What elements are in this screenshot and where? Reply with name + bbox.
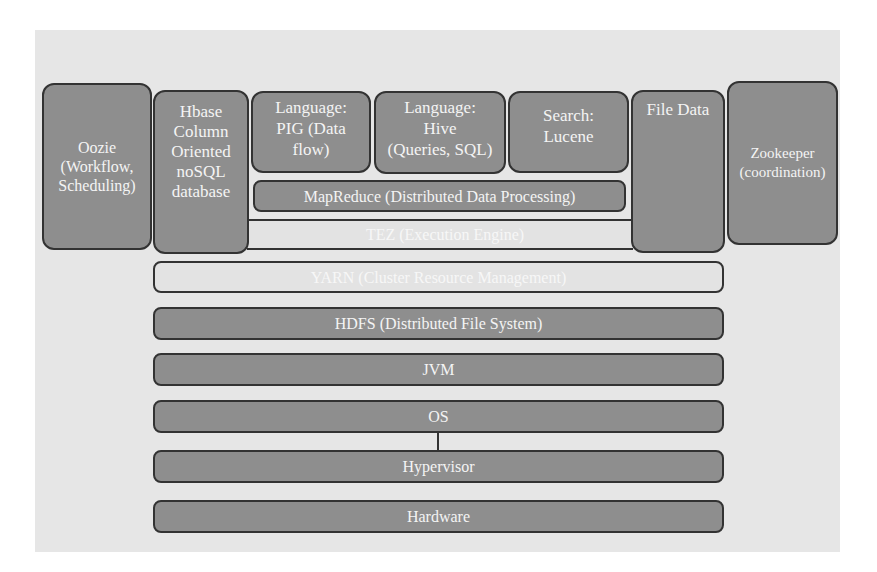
tez-layer: TEZ (Execution Engine) — [247, 219, 633, 250]
oozie-label: Oozie (Workflow, Scheduling) — [58, 138, 135, 195]
file-data-box: File Data — [631, 90, 725, 253]
hive-box: Language: Hive (Queries, SQL) — [374, 91, 506, 174]
tez-label: TEZ (Execution Engine) — [366, 226, 524, 244]
file-data-label: File Data — [647, 100, 710, 119]
pig-box: Language: PIG (Data flow) — [251, 91, 371, 173]
hbase-label: Hbase Column Oriented noSQL database — [171, 102, 230, 202]
hardware-layer: Hardware — [153, 500, 724, 533]
hdfs-layer: HDFS (Distributed File System) — [153, 307, 724, 340]
pig-label: Language: PIG (Data flow) — [275, 97, 347, 160]
hypervisor-layer: Hypervisor — [153, 450, 724, 483]
oozie-box: Oozie (Workflow, Scheduling) — [42, 83, 152, 250]
lucene-box: Search: Lucene — [508, 91, 629, 173]
jvm-layer: JVM — [153, 353, 724, 386]
yarn-label: YARN (Cluster Resource Management) — [311, 268, 567, 287]
os-layer: OS — [153, 400, 724, 433]
os-label: OS — [428, 407, 448, 426]
os-hypervisor-connector — [437, 432, 439, 451]
yarn-layer: YARN (Cluster Resource Management) — [153, 261, 724, 293]
lucene-label: Search: Lucene — [543, 105, 594, 147]
hdfs-label: HDFS (Distributed File System) — [335, 314, 543, 333]
hive-label: Language: Hive (Queries, SQL) — [388, 97, 493, 160]
zookeeper-label: Zookeeper (coordination) — [740, 144, 826, 182]
jvm-label: JVM — [422, 360, 454, 379]
mapreduce-layer: MapReduce (Distributed Data Processing) — [253, 180, 626, 212]
hypervisor-label: Hypervisor — [403, 457, 475, 476]
hbase-box: Hbase Column Oriented noSQL database — [153, 90, 249, 254]
hardware-label: Hardware — [407, 507, 470, 526]
zookeeper-box: Zookeeper (coordination) — [727, 81, 838, 245]
mapreduce-label: MapReduce (Distributed Data Processing) — [304, 187, 575, 206]
